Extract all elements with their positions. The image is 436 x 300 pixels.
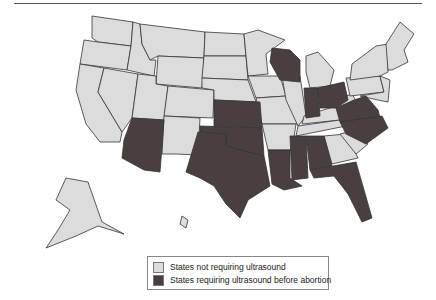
state-michigan	[306, 52, 334, 88]
state-colorado	[164, 86, 214, 118]
us-map	[0, 0, 436, 300]
state-new-york	[350, 44, 388, 80]
state-florida	[310, 162, 372, 222]
legend-swatch-light	[153, 262, 164, 273]
state-new-england	[386, 22, 414, 70]
legend-label: States requiring ultrasound before abort…	[170, 275, 331, 285]
map-legend: States not requiring ultrasound States r…	[147, 256, 329, 290]
state-wyoming	[156, 56, 204, 88]
state-alaska	[46, 178, 124, 248]
state-arizona	[122, 118, 164, 172]
legend-label: States not requiring ultrasound	[170, 262, 286, 272]
state-hawaii	[180, 216, 188, 228]
legend-item-no-ultrasound: States not requiring ultrasound	[153, 261, 286, 273]
legend-item-ultrasound: States requiring ultrasound before abort…	[153, 274, 331, 286]
state-washington	[92, 16, 133, 46]
state-mississippi	[290, 136, 308, 180]
state-kansas	[214, 100, 262, 128]
state-montana	[140, 24, 205, 60]
state-north-dakota	[204, 32, 246, 56]
legend-swatch-dark	[153, 275, 164, 286]
state-south-dakota	[202, 56, 248, 80]
state-indiana	[304, 88, 320, 118]
